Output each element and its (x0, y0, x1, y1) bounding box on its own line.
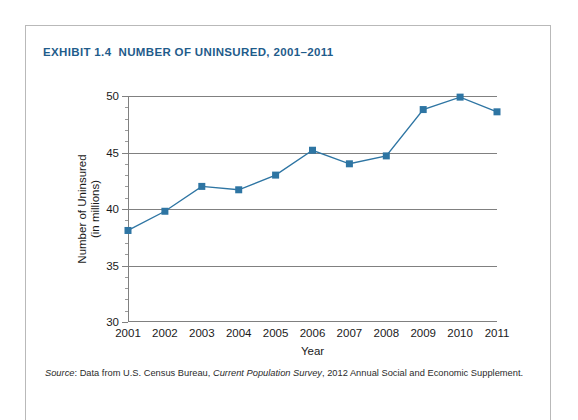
y-axis-title: Number of Uninsured (in millions) (72, 96, 106, 322)
data-point-2003 (198, 183, 205, 190)
y-tick-label-35: 35 (106, 260, 119, 272)
data-point-2002 (161, 208, 168, 215)
data-point-2007 (346, 160, 353, 167)
x-tick-label-2006: 2006 (300, 327, 326, 339)
data-point-2011 (494, 108, 501, 115)
x-tick-label-2011: 2011 (485, 327, 510, 339)
x-tick-label-2002: 2002 (152, 327, 178, 339)
y-tick-label-40: 40 (106, 203, 119, 215)
x-axis-title: Year (128, 345, 497, 357)
x-tick-label-2004: 2004 (226, 327, 252, 339)
x-tick-label-2008: 2008 (374, 327, 400, 339)
source-note: Source: Data from U.S. Census Bureau, Cu… (45, 366, 532, 380)
x-tick-label-2001: 2001 (115, 327, 141, 339)
x-tick-label-2003: 2003 (189, 327, 215, 339)
plot-area: 3035404550 20012002200320042005200620072… (128, 96, 497, 322)
data-point-2006 (309, 147, 316, 154)
y-axis-title-line2: (in millions) (89, 180, 101, 238)
source-label: Source (45, 368, 74, 378)
data-point-2008 (383, 152, 390, 159)
y-tick-label-50: 50 (106, 90, 119, 102)
series-line (128, 97, 497, 230)
x-tick-label-2009: 2009 (410, 327, 436, 339)
data-point-2001 (125, 227, 132, 234)
source-text-before: : Data from U.S. Census Bureau, (74, 368, 212, 378)
source-italic-work: Current Population Survey (213, 368, 322, 378)
page-title: EXHIBIT 1.4 NUMBER OF UNINSURED, 2001–20… (43, 46, 334, 58)
data-point-2004 (235, 186, 242, 193)
source-text-after: , 2012 Annual Social and Economic Supple… (322, 368, 523, 378)
x-tick-label-2007: 2007 (337, 327, 363, 339)
line-chart: 3035404550 20012002200320042005200620072… (128, 96, 497, 322)
data-series (128, 96, 497, 322)
data-point-2010 (457, 94, 464, 101)
y-tick-30 (122, 322, 128, 323)
x-tick-label-2010: 2010 (447, 327, 473, 339)
data-point-2009 (420, 106, 427, 113)
y-axis-title-line1: Number of Uninsured (76, 154, 88, 263)
x-tick-label-2005: 2005 (263, 327, 289, 339)
data-point-2005 (272, 172, 279, 179)
y-tick-label-45: 45 (106, 147, 119, 159)
